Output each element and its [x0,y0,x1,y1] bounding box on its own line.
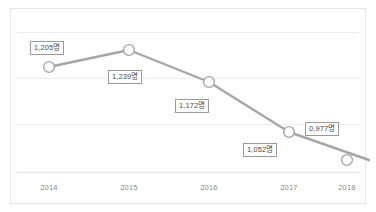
data-label-2017: 1,052명 [243,143,277,157]
data-label-2015: 1,239명 [108,70,142,84]
data-point-2015[interactable] [124,45,135,56]
x-axis-tick-2017: 2017 [280,183,298,192]
x-axis-tick-2016: 2016 [200,183,218,192]
x-axis-tick-2014: 2014 [40,183,58,192]
data-label-2016: 1,172명 [175,99,209,113]
data-label-2018: 0,977명 [305,122,339,136]
data-point-2016[interactable] [204,77,215,88]
x-axis-tick-2015: 2015 [120,183,138,192]
plot-area: 1,205명 1,239명 1,172명 1,052명 0,977명 2014 … [17,14,359,198]
x-axis-tick-2018: 2018 [338,183,356,192]
data-point-2014[interactable] [44,62,55,73]
data-point-2017[interactable] [284,127,295,138]
data-label-2014: 1,205명 [30,41,64,55]
line-chart-container: 1,205명 1,239명 1,172명 1,052명 0,977명 2014 … [0,0,376,212]
data-point-2018[interactable] [342,155,353,166]
